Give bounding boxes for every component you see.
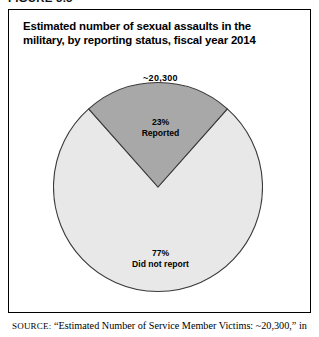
pie-label-did-not-report-text: Did not report <box>9 259 311 270</box>
pie-label-did-not-report-percent: 77% <box>9 248 311 259</box>
source-text: “Estimated Number of Service Member Vict… <box>51 320 306 331</box>
pie-label-reported-text: Reported <box>9 128 311 139</box>
source-keyword: SOURCE: <box>12 321 51 331</box>
figure-number-label: FIGURE 3.5 <box>8 0 73 6</box>
source-note: SOURCE: “Estimated Number of Service Mem… <box>12 320 317 332</box>
pie-chart: 23% Reported 77% Did not report <box>9 10 311 313</box>
pie-label-reported-percent: 23% <box>9 117 311 128</box>
figure-box: Estimated number of sexual assaults in t… <box>8 9 311 313</box>
pie-label-did-not-report: 77% Did not report <box>9 248 311 269</box>
pie-label-reported: 23% Reported <box>9 117 311 138</box>
